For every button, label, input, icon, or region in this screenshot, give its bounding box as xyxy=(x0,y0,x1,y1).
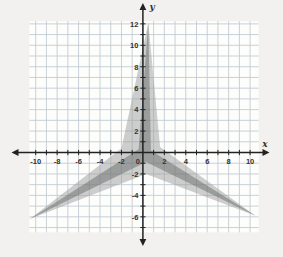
axis-label: 8 xyxy=(227,157,231,166)
x-axis-title: x xyxy=(261,139,268,149)
axis-label: 8 xyxy=(134,63,138,72)
axis-label: 10 xyxy=(130,41,138,50)
axis-label: -4 xyxy=(132,191,139,200)
axis-label: 2 xyxy=(162,157,166,166)
axis-label: -4 xyxy=(97,157,104,166)
axis-label: -2 xyxy=(118,157,125,166)
axis-label: -10 xyxy=(30,157,41,166)
axis-label: 10 xyxy=(246,157,254,166)
axis-label: 12 xyxy=(130,20,138,29)
y-axis-title: y xyxy=(149,2,156,12)
axis-label: 0 xyxy=(136,157,140,166)
graph-figure: -10-8-6-4-2024681012108642-2-4-6xy xyxy=(0,0,283,257)
axis-label: 6 xyxy=(134,84,138,93)
coordinate-plane: -10-8-6-4-2024681012108642-2-4-6xy xyxy=(0,0,283,257)
axis-label: -6 xyxy=(132,213,139,222)
axis-label: 6 xyxy=(205,157,209,166)
axis-label: -8 xyxy=(54,157,61,166)
axis-label: -2 xyxy=(132,170,139,179)
axis-label: -6 xyxy=(75,157,82,166)
axis-label: 2 xyxy=(134,127,138,136)
